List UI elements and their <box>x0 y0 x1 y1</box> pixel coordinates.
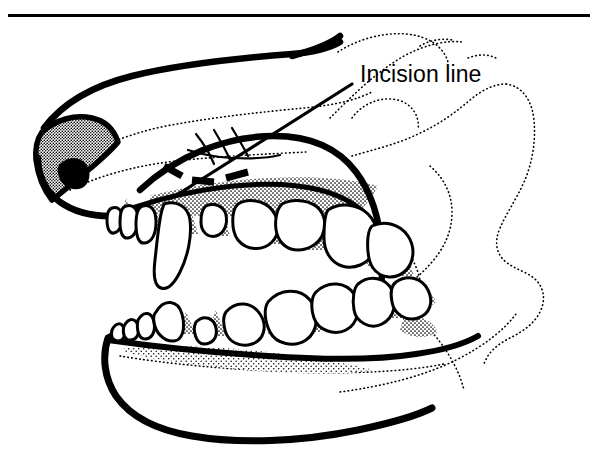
upper-premolar-1 <box>201 204 227 236</box>
lower-premolar-2 <box>224 304 265 345</box>
lower-premolar-1 <box>194 318 216 344</box>
lower-incisor-3 <box>137 313 154 339</box>
upper-premolar-3 <box>276 201 325 250</box>
lower-molar-2 <box>353 278 395 326</box>
figure-root: Incision line <box>0 0 594 454</box>
incision-line-label: Incision line <box>360 61 481 87</box>
upper-molar <box>368 223 413 277</box>
lower-carnassial <box>265 291 316 344</box>
lower-molar-3 <box>391 278 431 319</box>
upper-incisor-3 <box>136 206 156 243</box>
upper-premolar-2 <box>233 201 278 249</box>
lower-molar-1 <box>312 284 358 332</box>
anatomical-diagram: Incision line <box>0 0 594 454</box>
